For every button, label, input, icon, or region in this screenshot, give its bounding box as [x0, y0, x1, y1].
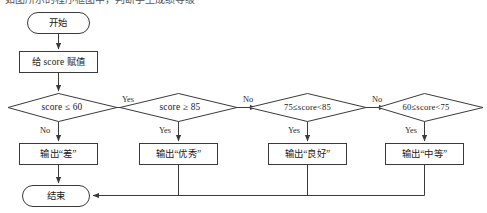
node-decision1-label: score ≤ 60 — [42, 102, 83, 112]
node-end: 结束 — [23, 186, 90, 207]
node-assign: 给 score 赋值 — [20, 52, 98, 73]
edge-label-decision4-yes: Yes — [405, 126, 417, 135]
node-decision1: score ≤ 60 — [8, 94, 117, 122]
node-decision2: score ≥ 85 — [120, 94, 237, 122]
node-output4: 输出“中等” — [386, 144, 464, 165]
flowchart-canvas: 开始 给 score 赋值 score ≤ 60 Yes No score ≥ … — [0, 0, 487, 213]
edge-label-decision1-no: No — [40, 126, 50, 135]
node-decision3: 75≤score<85 — [249, 94, 366, 122]
node-end-label: 结束 — [47, 190, 66, 201]
node-output1-label: 输出“差” — [40, 148, 76, 159]
node-output4-label: 输出“中等” — [402, 148, 448, 159]
node-start-label: 开始 — [49, 17, 68, 28]
node-decision3-label: 75≤score<85 — [284, 102, 331, 112]
node-decision4-label: 60≤score<75 — [402, 102, 449, 112]
node-output2-label: 输出“优秀” — [156, 148, 202, 159]
node-decision4: 60≤score<75 — [378, 94, 483, 122]
edge-label-decision2-yes: Yes — [159, 126, 171, 135]
edge-label-decision3-no: No — [372, 95, 382, 104]
node-output2: 输出“优秀” — [140, 144, 218, 165]
edge-label-decision1-yes: Yes — [122, 95, 134, 104]
node-output1: 输出“差” — [20, 144, 98, 165]
edge-label-decision2-no: No — [243, 95, 253, 104]
edge-label-decision3-yes: Yes — [288, 126, 300, 135]
node-output3: 输出“良好” — [269, 144, 347, 165]
node-start: 开始 — [28, 13, 90, 34]
node-output3-label: 输出“良好” — [285, 148, 331, 159]
node-decision2-label: score ≥ 85 — [160, 102, 201, 112]
flowchart-page: 如图所示的程序框图中，判断学生成绩等级 开始 给 score 赋值 score … — [0, 0, 487, 213]
node-assign-label: 给 score 赋值 — [32, 56, 85, 67]
